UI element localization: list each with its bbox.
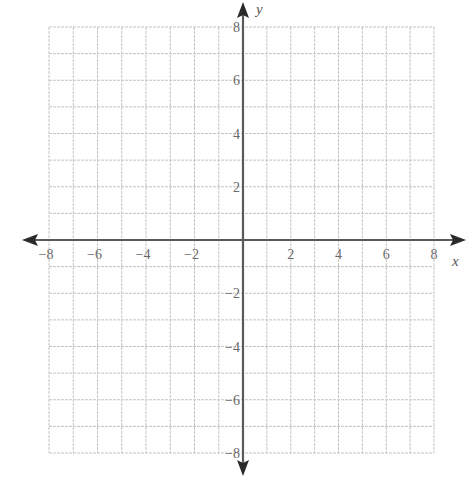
- y-tick-label: −4: [225, 340, 240, 355]
- y-tick-label: −8: [225, 446, 240, 461]
- x-tick-label: −6: [87, 247, 102, 262]
- y-tick-label: −2: [225, 286, 240, 301]
- x-axis-title: x: [451, 253, 459, 269]
- x-tick-label: 4: [335, 247, 342, 262]
- x-tick-label: 8: [431, 247, 438, 262]
- y-tick-label: 8: [233, 20, 240, 35]
- axes: [22, 2, 466, 476]
- y-tick-label: 4: [233, 127, 240, 142]
- x-tick-label: −4: [136, 247, 151, 262]
- x-tick-label: 6: [383, 247, 390, 262]
- x-tick-label: −2: [184, 247, 199, 262]
- x-tick-label: 2: [287, 247, 294, 262]
- y-tick-label: 2: [233, 180, 240, 195]
- x-tick-label: −8: [39, 247, 54, 262]
- x-tick-labels: −8−6−4−22468: [39, 247, 438, 262]
- y-tick-label: 6: [233, 73, 240, 88]
- coordinate-plane: −8−6−4−22468 8642−2−4−6−8 x y: [0, 0, 469, 478]
- y-tick-label: −6: [225, 393, 240, 408]
- y-axis-title: y: [254, 1, 263, 17]
